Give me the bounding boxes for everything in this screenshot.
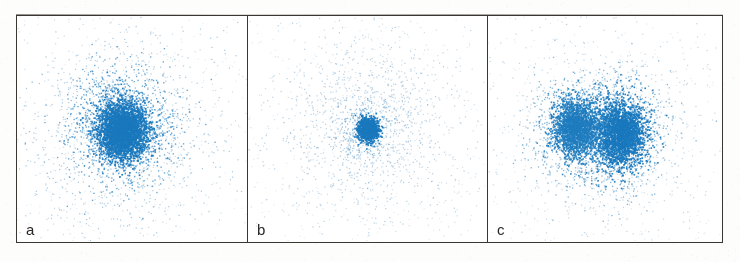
point-cloud-c bbox=[488, 16, 722, 241]
panel-label-c: c bbox=[497, 222, 505, 237]
scatter-panel-b: b bbox=[247, 16, 487, 242]
scatter-figure: abc bbox=[0, 0, 740, 262]
point-cloud-a bbox=[17, 16, 247, 241]
panel-label-a: a bbox=[26, 222, 34, 237]
panel-strip: abc bbox=[16, 15, 723, 243]
scatter-panel-c: c bbox=[487, 16, 722, 242]
scatter-panel-a: a bbox=[17, 16, 247, 242]
panel-label-b: b bbox=[257, 222, 265, 237]
point-cloud-b bbox=[248, 16, 487, 241]
